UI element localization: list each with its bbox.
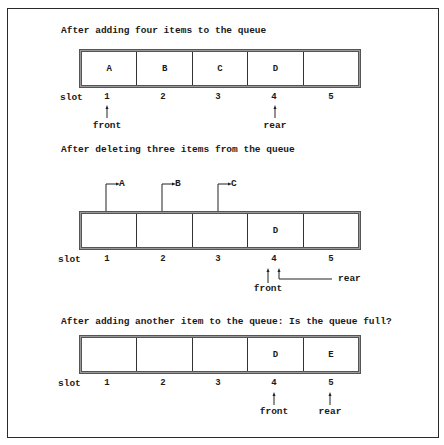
panel-2-rear-label: rear	[338, 273, 361, 284]
panel-1-slot-5: 5	[328, 92, 333, 102]
panel-3-front-label: front	[260, 406, 289, 417]
panel-2-cell-3	[193, 214, 248, 247]
panel-3-slot-2: 2	[160, 378, 165, 388]
panel-1-rear-label: rear	[264, 120, 287, 131]
panel-2-front-label: front	[254, 283, 283, 294]
panel-3-cell-1	[82, 338, 137, 371]
panel-2-slot-5: 5	[328, 254, 333, 264]
panel-3-slot-4: 4	[271, 378, 276, 388]
panel-2-queue-array: D	[79, 211, 361, 250]
panel-2-cell-4: D	[248, 214, 303, 247]
panel-3-cell-4: D	[248, 338, 303, 371]
panel-2-slot-2: 2	[160, 254, 165, 264]
panel-3-cell-2	[137, 338, 192, 371]
panel-1-slot-3: 3	[215, 92, 220, 102]
panel-2-title: After deleting three items from the queu…	[61, 144, 295, 155]
panel-1-slot-4: 4	[271, 92, 276, 102]
panel-1-cell-1: A	[82, 52, 137, 85]
panel-3-slot-1: 1	[104, 378, 109, 388]
panel-1-cell-5	[304, 52, 358, 85]
panel-1-cell-2: B	[137, 52, 192, 85]
panel-3-cell-5: E	[304, 338, 358, 371]
panel-1-title: After adding four items to the queue	[61, 25, 266, 36]
panel-3-cell-3	[193, 338, 248, 371]
panel-1-slot-1: 1	[104, 92, 109, 102]
panel-1-front-label: front	[93, 120, 122, 131]
panel-2-slot-4: 4	[271, 254, 276, 264]
panel-1-cell-3: C	[193, 52, 248, 85]
panel-2-cell-1	[82, 214, 137, 247]
panel-2-slot-1: 1	[104, 254, 109, 264]
panel-3-slot-3: 3	[215, 378, 220, 388]
panel-2-cell-2	[137, 214, 192, 247]
panel-1-queue-array: A B C D	[79, 49, 361, 88]
panel-1-slot-label: slot	[60, 92, 83, 103]
removed-item-a: A	[119, 178, 125, 189]
panel-3-slot-5: 5	[328, 378, 333, 388]
removed-item-b: B	[175, 178, 181, 189]
panel-1-slot-2: 2	[160, 92, 165, 102]
panel-1-cell-4: D	[248, 52, 303, 85]
panel-2-slot-3: 3	[215, 254, 220, 264]
panel-3-rear-label: rear	[319, 406, 342, 417]
panel-3-queue-array: D E	[79, 335, 361, 374]
removed-item-c: C	[231, 178, 237, 189]
panel-3-title: After adding another item to the queue: …	[61, 316, 392, 327]
panel-2-slot-label: slot	[58, 254, 81, 265]
panel-3-slot-label: slot	[58, 378, 81, 389]
panel-2-cell-5	[304, 214, 358, 247]
